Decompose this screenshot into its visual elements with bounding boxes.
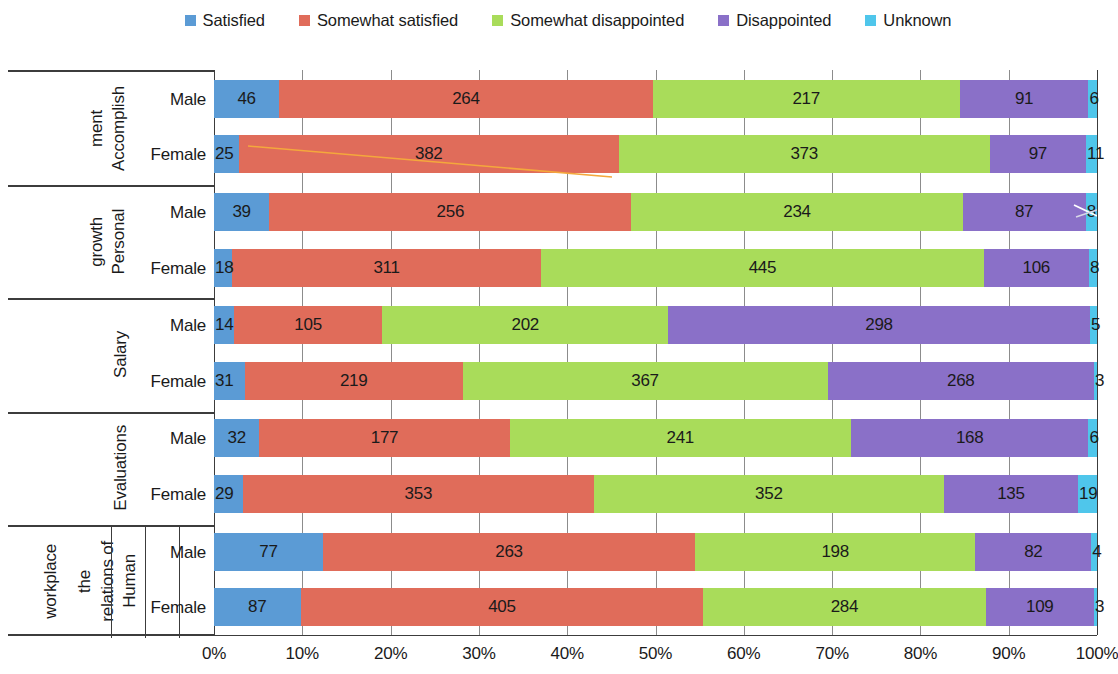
category-label-columns: Humanrelations oftheworkplace: [8, 525, 136, 638]
bar-segment-value: 14: [215, 315, 233, 335]
bar-segment: 3: [1094, 588, 1097, 626]
category-separator: [8, 525, 215, 527]
bar-row: 141052022985: [214, 306, 1097, 344]
bar-segment: 367: [463, 362, 828, 400]
bar-segment-value: 87: [248, 597, 266, 617]
bar-segment: 105: [234, 306, 383, 344]
bar-segment-value: 105: [294, 315, 321, 335]
bar-segment: 8: [1086, 193, 1097, 231]
category-label-column: Evaluations: [106, 412, 136, 525]
bar-segment: 353: [243, 475, 594, 513]
category-label-line: Personal: [109, 209, 129, 275]
bar-segment-value: 6: [1089, 89, 1098, 109]
category-separator: [8, 298, 215, 300]
x-axis-tick: 80%: [904, 644, 937, 664]
category-group-2: PersonalgrowthMaleFemale: [8, 185, 214, 298]
bar-segment: 219: [245, 362, 463, 400]
bar-segment-value: 97: [1029, 144, 1047, 164]
category-label-line: ment: [87, 110, 107, 147]
bar-segment-value: 3: [1095, 597, 1104, 617]
row-label-female: Female: [151, 485, 207, 505]
bar-segment: 87: [214, 588, 301, 626]
bar-segment-value: 168: [956, 428, 983, 448]
bar-segment: 4: [1091, 533, 1097, 571]
x-axis-tick: 70%: [815, 644, 848, 664]
x-axis-tick: 0%: [202, 644, 226, 664]
row-label-male: Male: [170, 90, 206, 110]
x-axis-tick: 100%: [1076, 644, 1118, 664]
bar-segment: 5: [1090, 306, 1097, 344]
category-label-line: workplace: [41, 544, 61, 619]
bar-segment: 445: [541, 249, 983, 287]
category-label-columns: Accomplishment: [8, 72, 136, 185]
bar-segment: 29: [214, 475, 243, 513]
bar-row: 253823739711: [214, 135, 1097, 173]
bar-segment: 77: [214, 533, 323, 571]
bar-segment: 168: [851, 419, 1089, 457]
bar-segment-value: 11: [1087, 144, 1104, 164]
bar-segment: 284: [703, 588, 985, 626]
bar-segment: 311: [232, 249, 541, 287]
bar-segment: 135: [944, 475, 1078, 513]
bar-segment: 25: [214, 135, 239, 173]
bar-segment: 298: [668, 306, 1090, 344]
bar-segment: 241: [510, 419, 851, 457]
bar-row: 39256234878: [214, 193, 1097, 231]
x-axis-tick: 10%: [286, 644, 319, 664]
category-column-divider: [111, 525, 112, 638]
bar-segment-value: 352: [755, 484, 782, 504]
bar-segment-value: 39: [232, 202, 250, 222]
category-separator: [8, 412, 215, 414]
category-label-line: Accomplish: [109, 86, 129, 171]
row-label-female: Female: [151, 259, 207, 279]
row-label-female: Female: [151, 598, 207, 618]
bar-segment-value: 5: [1091, 315, 1100, 335]
bar-segment: 11: [1086, 135, 1097, 173]
x-axis-tick: 30%: [462, 644, 495, 664]
bar-segment: 97: [990, 135, 1086, 173]
bar-segment-value: 19: [1079, 484, 1097, 504]
bar-segment: 234: [631, 193, 962, 231]
bar-segment-value: 87: [1015, 202, 1033, 222]
x-axis-tick: 90%: [992, 644, 1025, 664]
bar-segment: 91: [960, 80, 1089, 118]
category-column-divider: [145, 525, 146, 638]
bar-segment: 19: [1078, 475, 1097, 513]
bar-segment-value: 106: [1023, 258, 1050, 278]
row-label-female: Female: [151, 372, 207, 392]
bar-row: 312193672683: [214, 362, 1097, 400]
bar-segment-value: 46: [237, 89, 255, 109]
bar-segment-value: 268: [947, 371, 974, 391]
category-group-5: Humanrelations oftheworkplaceMaleFemale: [8, 525, 214, 638]
category-group-4: EvaluationsMaleFemale: [8, 412, 214, 525]
category-group-1: AccomplishmentMaleFemale: [8, 72, 214, 185]
bar-segment-value: 6: [1089, 428, 1098, 448]
bar-row: 183114451068: [214, 249, 1097, 287]
x-axis-tick: 40%: [550, 644, 583, 664]
bar-segment-value: 263: [495, 542, 522, 562]
bar-segment-value: 135: [997, 484, 1024, 504]
bar-segment: 3: [1094, 362, 1097, 400]
x-axis-tick: 20%: [374, 644, 407, 664]
bar-segment: 109: [986, 588, 1094, 626]
bar-segment-value: 264: [452, 89, 479, 109]
bar-segment-value: 25: [215, 144, 233, 164]
row-label-male: Male: [170, 429, 206, 449]
bar-segment-value: 82: [1024, 542, 1042, 562]
bar-segment-value: 219: [340, 371, 367, 391]
bar-segment: 263: [323, 533, 695, 571]
category-label-column: Personalgrowth: [80, 185, 136, 298]
bar-segment-value: 311: [373, 258, 399, 278]
category-label-line: Evaluations: [111, 425, 131, 511]
bar-segment-value: 8: [1087, 202, 1096, 222]
category-label-columns: Evaluations: [8, 412, 136, 525]
bar-segment-value: 4: [1092, 542, 1101, 562]
row-label-female: Female: [151, 145, 207, 165]
category-label-line: Human: [120, 554, 140, 608]
category-label-columns: Personalgrowth: [8, 185, 136, 298]
bar-segment-value: 256: [437, 202, 464, 222]
bar-segment: 8: [1089, 249, 1097, 287]
bar-segment: 31: [214, 362, 245, 400]
category-group-3: SalaryMaleFemale: [8, 298, 214, 411]
